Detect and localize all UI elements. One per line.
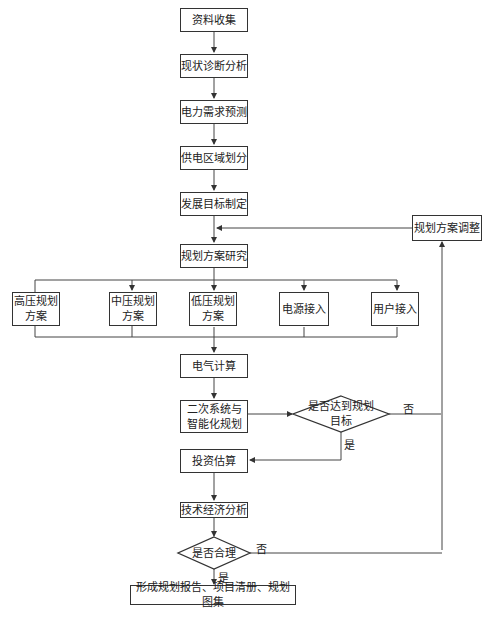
branch-label: 电源接入 — [282, 302, 326, 317]
branch-label-line2: 方案 — [25, 309, 47, 324]
step-tech-economic: 技术经济分析 — [180, 502, 248, 518]
step-goal-setting: 发展目标制定 — [180, 192, 248, 216]
edge-label-d1-yes: 是 — [344, 436, 355, 452]
step-label: 电气计算 — [192, 359, 236, 374]
branch-label-line1: 高压规划 — [14, 294, 58, 309]
branch-label-line2: 方案 — [202, 309, 224, 324]
decision-label-line1: 是否达到规划 — [308, 399, 374, 414]
step-label: 规划方案研究 — [181, 249, 247, 264]
branch-label: 用户接入 — [373, 302, 417, 317]
step-investment-estimate: 投资估算 — [180, 449, 248, 473]
branch-power-access: 电源接入 — [279, 292, 329, 326]
step-data-collection: 资料收集 — [180, 8, 248, 32]
step-label: 形成规划报告、项目清册、规划图集 — [131, 580, 295, 610]
step-label: 现状诊断分析 — [181, 59, 247, 74]
step-label: 技术经济分析 — [181, 503, 247, 518]
step-label: 发展目标制定 — [181, 197, 247, 212]
step-label-line2: 智能化规划 — [187, 417, 242, 432]
step-plan-adjust: 规划方案调整 — [412, 215, 482, 241]
branch-label-line1: 中压规划 — [111, 294, 155, 309]
step-label-line1: 二次系统与 — [187, 402, 242, 417]
decision-target-text: 是否达到规划目标 — [295, 398, 387, 430]
step-secondary-system: 二次系统与智能化规划 — [180, 400, 248, 433]
edge-label-d2-no: 否 — [256, 540, 267, 556]
branch-label-line2: 方案 — [122, 309, 144, 324]
step-final-report: 形成规划报告、项目清册、规划图集 — [130, 585, 296, 605]
step-plan-research: 规划方案研究 — [180, 244, 248, 268]
step-load-forecast: 电力需求预测 — [180, 100, 248, 124]
branch-user-access: 用户接入 — [371, 292, 419, 326]
step-label: 资料收集 — [192, 13, 236, 28]
branch-medium-voltage: 中压规划方案 — [109, 292, 157, 326]
decision-reasonable-text: 是否合理 — [180, 545, 248, 561]
step-label: 投资估算 — [192, 454, 236, 469]
branch-label-line1: 低压规划 — [191, 294, 235, 309]
decision-label: 是否合理 — [192, 546, 236, 561]
step-area-division: 供电区域划分 — [180, 146, 248, 170]
edge-label-d1-no: 否 — [403, 400, 414, 416]
step-label: 电力需求预测 — [181, 105, 247, 120]
step-electrical-calc: 电气计算 — [180, 354, 248, 378]
decision-label-line2: 目标 — [330, 414, 352, 429]
step-status-analysis: 现状诊断分析 — [180, 54, 248, 78]
step-label: 供电区域划分 — [181, 151, 247, 166]
step-label: 规划方案调整 — [414, 221, 480, 236]
branch-low-voltage: 低压规划方案 — [189, 292, 237, 326]
branch-high-voltage: 高压规划方案 — [12, 292, 60, 326]
